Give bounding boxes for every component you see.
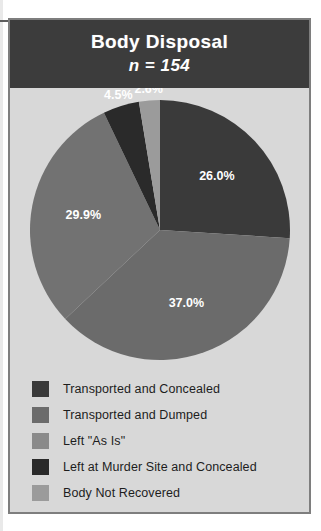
legend-swatch [32,407,49,423]
chart-legend: Transported and ConcealedTransported and… [32,376,299,506]
legend-item[interactable]: Transported and Dumped [32,402,299,428]
chart-figure: Body Disposal n = 154 26.0%37.0%29.9%4.5… [8,18,311,514]
chart-title-band: Body Disposal n = 154 [10,20,309,88]
legend-swatch [32,433,49,449]
legend-item-label: Transported and Dumped [63,408,207,422]
page-left-margin [0,0,3,531]
legend-item[interactable]: Body Not Recovered [32,480,299,506]
legend-item[interactable]: Left at Murder Site and Concealed [32,454,299,480]
legend-item-label: Body Not Recovered [63,486,180,500]
pie-slice-group [30,100,290,360]
legend-item-label: Left "As Is" [63,434,125,448]
legend-item[interactable]: Left "As Is" [32,428,299,454]
legend-swatch [32,459,49,475]
legend-swatch [32,381,49,397]
pie-slice-label: 4.5% [104,88,133,102]
page-title: Body Disposal [91,32,228,53]
pie-chart-svg: 26.0%37.0%29.9%4.5%2.6% [10,88,309,366]
legend-item-label: Left at Murder Site and Concealed [63,460,257,474]
pie-slice-label: 26.0% [199,169,234,183]
chart-subtitle: n = 154 [129,57,191,76]
pie-slice-label: 29.9% [66,208,101,222]
pie-slice-label: 2.6% [134,88,163,96]
pie-chart: 26.0%37.0%29.9%4.5%2.6% [10,88,309,366]
legend-item-label: Transported and Concealed [63,382,220,396]
legend-swatch [32,485,49,501]
pie-slice-label: 37.0% [169,296,204,310]
plot-area: 26.0%37.0%29.9%4.5%2.6% Transported and … [10,88,309,512]
legend-item[interactable]: Transported and Concealed [32,376,299,402]
